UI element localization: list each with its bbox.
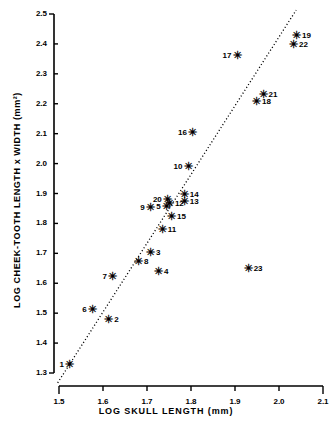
- data-point-marker: ✳: [180, 189, 189, 200]
- data-point-label: 4: [164, 268, 168, 276]
- trend-line: [58, 10, 296, 383]
- data-point-marker: ✳: [108, 271, 117, 282]
- data-point-label: 21: [269, 91, 278, 99]
- y-tick-label: 1.8: [25, 218, 47, 227]
- x-tick-label: 1.8: [180, 397, 202, 406]
- y-tick-label: 2.0: [25, 159, 47, 168]
- y-tick-label: 2.5: [25, 9, 47, 18]
- x-tick-label: 1.6: [92, 397, 114, 406]
- y-tick-label: 1.6: [25, 278, 47, 287]
- y-tick-label: 2.4: [25, 39, 47, 48]
- y-tick-label: 2.1: [25, 129, 47, 138]
- data-point-marker: ✳: [289, 39, 298, 50]
- data-point-label: 14: [190, 191, 199, 199]
- x-axis-title: LOG SKULL LENGTH (mm): [0, 406, 332, 416]
- y-axis-title: LOG CHEEK-TOOTH LENGTH x WIDTH (mm²): [12, 45, 22, 355]
- data-point-marker: ✳: [65, 359, 74, 370]
- data-point-marker: ✳: [188, 127, 197, 138]
- data-point-label: 23: [254, 265, 263, 273]
- scatter-plot: LOG SKULL LENGTH (mm) LOG CHEEK-TOOTH LE…: [0, 0, 332, 431]
- data-point-marker: ✳: [88, 304, 97, 315]
- data-point-label: 16: [178, 129, 187, 137]
- data-point-label: 2: [114, 316, 118, 324]
- data-point-label: 8: [144, 258, 148, 266]
- data-point-label: 11: [168, 226, 176, 234]
- data-point-marker: ✳: [184, 161, 193, 172]
- y-tick-label: 1.5: [25, 308, 47, 317]
- data-point-label: 3: [156, 249, 160, 257]
- y-tick-label: 1.9: [25, 189, 47, 198]
- data-point-marker: ✳: [259, 89, 268, 100]
- y-tick-label: 2.2: [25, 99, 47, 108]
- data-point-marker: ✳: [167, 211, 176, 222]
- data-point-marker: ✳: [154, 266, 163, 277]
- data-point-label: 20: [153, 196, 162, 204]
- data-point-label: 9: [140, 204, 144, 212]
- y-tick-label: 1.7: [25, 248, 47, 257]
- y-tick-label: 1.3: [25, 368, 47, 377]
- data-point-marker: ✳: [163, 194, 172, 205]
- x-tick-label: 2.1: [312, 397, 332, 406]
- data-point-label: 15: [177, 213, 186, 221]
- data-point-label: 17: [222, 52, 231, 60]
- x-tick-label: 1.5: [48, 397, 70, 406]
- plot-canvas: [0, 0, 332, 431]
- y-tick-label: 1.4: [25, 338, 47, 347]
- y-tick-label: 2.3: [25, 69, 47, 78]
- data-point-label: 1: [59, 361, 63, 369]
- data-point-marker: ✳: [233, 50, 242, 61]
- data-point-marker: ✳: [158, 224, 167, 235]
- data-point-marker: ✳: [244, 263, 253, 274]
- x-tick-label: 1.9: [224, 397, 246, 406]
- data-point-label: 19: [302, 32, 311, 40]
- x-tick-label: 2.0: [268, 397, 290, 406]
- x-tick-label: 1.7: [136, 397, 158, 406]
- data-point-label: 10: [174, 163, 183, 171]
- data-point-marker: ✳: [104, 314, 113, 325]
- data-point-label: 22: [299, 41, 308, 49]
- data-point-label: 7: [103, 273, 107, 281]
- data-point-label: 6: [82, 306, 86, 314]
- data-point-marker: ✳: [134, 256, 143, 267]
